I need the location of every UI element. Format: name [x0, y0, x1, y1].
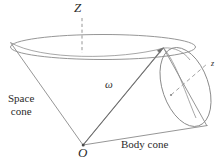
z-axis-label: Z — [74, 1, 81, 15]
origin-label: O — [78, 146, 87, 160]
omega-vector-label: ω — [105, 79, 113, 91]
space-cone-rim-inner-arc — [11, 43, 165, 57]
space-cone-label-line-1: Space — [8, 92, 34, 105]
omega-vector-arrow-shaft — [84, 51, 161, 144]
body-cone-label: Body cone — [121, 139, 168, 151]
body-cone-rim-top-connector — [164, 48, 191, 60]
space-cone-label: Space cone — [8, 92, 34, 118]
omega-vector-arrowhead — [157, 48, 163, 54]
body-axis-label: z — [211, 60, 214, 68]
space-cone-label-line-2: cone — [8, 105, 34, 118]
body-cone-upper-generator — [164, 48, 208, 126]
body-axis-leader-dot — [170, 94, 172, 96]
body-axis-leader-line — [171, 64, 207, 95]
body-cone-secondary-edge — [164, 48, 197, 118]
space-cone-body-cone-figure: Z ω O Space cone Body cone z — [0, 0, 219, 162]
